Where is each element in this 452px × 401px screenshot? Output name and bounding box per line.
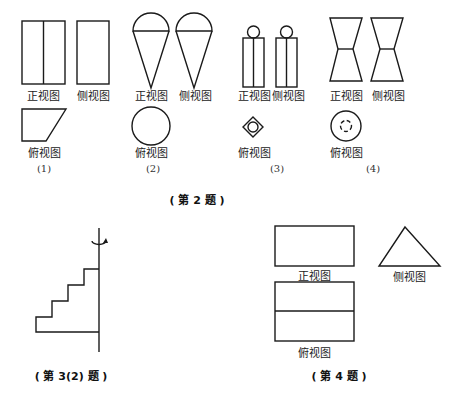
- fig3-top-view-circle: [248, 122, 258, 132]
- caption-problem-4: ( 第 4 题 ): [311, 369, 366, 383]
- fig4-front-view-label: 正视图: [330, 89, 363, 103]
- fig1-top-view-label: 俯视图: [28, 146, 61, 160]
- fig2-front-view-label: 正视图: [135, 89, 168, 103]
- fig4-top-view-outer-circle: [331, 111, 361, 141]
- fig2-front-hemisphere: [133, 13, 169, 31]
- problem-4-figure: 正视图 侧视图 俯视图: [275, 226, 440, 360]
- fig4-number: (4): [366, 163, 380, 174]
- fig4-side-view-label: 侧视图: [372, 89, 405, 103]
- p4-front-view-label: 正视图: [298, 269, 331, 283]
- fig4-top-view-hidden-circle: [341, 121, 352, 132]
- figure-2: 正视图 侧视图 俯视图 (2): [132, 13, 212, 174]
- fig3-side-view-label: 侧视图: [272, 89, 305, 103]
- fig2-side-hemisphere: [176, 13, 212, 31]
- p4-side-view-label: 侧视图: [393, 270, 426, 284]
- fig1-side-view-rect: [77, 21, 109, 84]
- fig3-front-view-label: 正视图: [238, 89, 271, 103]
- fig1-top-view-trapezoid: [22, 109, 66, 141]
- fig2-top-view-label: 俯视图: [135, 146, 168, 160]
- fig3-top-view-label: 俯视图: [238, 146, 271, 160]
- fig4-top-view-label: 俯视图: [330, 146, 363, 160]
- p4-front-view-rect: [275, 226, 354, 266]
- fig2-front-cone: [133, 31, 169, 88]
- fig3-front-sphere: [248, 26, 260, 38]
- fig3-side-sphere: [281, 26, 293, 38]
- fig1-number: (1): [37, 163, 51, 174]
- figure-4: 正视图 侧视图 俯视图 (4): [330, 18, 405, 174]
- fig1-side-view-label: 侧视图: [77, 89, 110, 103]
- fig3-top-view-diamond: [243, 117, 263, 137]
- fig2-number: (2): [146, 163, 160, 174]
- fig2-top-view-circle: [132, 107, 170, 145]
- fig2-side-cone: [176, 31, 212, 88]
- caption-problem-3-2: ( 第 3(2) 题 ): [35, 369, 108, 383]
- three-view-diagram: 正视图 侧视图 俯视图 (1) 正视图 侧视图 俯视图 (2) 正视图 侧视图 …: [0, 0, 452, 401]
- p4-side-view-triangle: [379, 227, 440, 266]
- fig2-side-view-label: 侧视图: [179, 89, 212, 103]
- rotation-arrowhead-icon: [103, 238, 108, 243]
- fig1-front-view-label: 正视图: [27, 89, 60, 103]
- problem-3-2-figure: [36, 228, 108, 352]
- caption-problem-2: ( 第 2 题 ): [169, 193, 224, 207]
- figure-1: 正视图 侧视图 俯视图 (1): [22, 21, 110, 174]
- fig3-number: (3): [270, 163, 284, 174]
- figure-3: 正视图 侧视图 俯视图 (3): [238, 26, 305, 174]
- p4-top-view-label: 俯视图: [298, 346, 331, 360]
- stepped-profile: [36, 269, 99, 332]
